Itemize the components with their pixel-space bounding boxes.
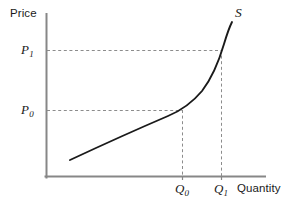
- supply-curve-label: S: [235, 6, 242, 20]
- y-tick-label-p1-base: P: [21, 42, 29, 57]
- supply-curve-figure: Price Quantity P1 P0 Q0 Q1 S: [0, 0, 296, 201]
- supply-curve-canvas: [0, 0, 296, 201]
- x-tick-label-q0-subscript: 0: [185, 188, 190, 198]
- supply-curve-path: [70, 22, 232, 160]
- x-tick-label-q1-subscript: 1: [224, 188, 229, 198]
- x-tick-label-q0: Q0: [175, 182, 189, 198]
- y-axis-title: Price: [10, 8, 37, 20]
- y-tick-label-p1: P1: [21, 43, 34, 59]
- y-tick-label-p0: P0: [21, 103, 34, 119]
- x-tick-label-q0-base: Q: [175, 181, 184, 196]
- y-tick-label-p0-subscript: 0: [29, 109, 34, 119]
- x-tick-label-q1: Q1: [214, 182, 228, 198]
- x-tick-label-q1-base: Q: [214, 181, 223, 196]
- y-tick-label-p1-subscript: 1: [29, 49, 34, 59]
- y-tick-label-p0-base: P: [21, 102, 29, 117]
- x-axis-title: Quantity: [237, 183, 281, 195]
